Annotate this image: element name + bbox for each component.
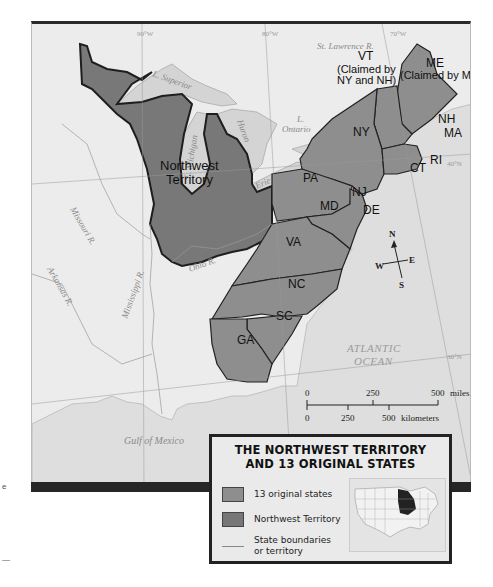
label-mississippi-river: Mississippi R. — [119, 269, 146, 321]
swatch-boundary-line — [222, 546, 244, 547]
legend-title-line2: AND 13 ORIGINAL STATES — [212, 457, 449, 471]
page-margin-dash: — — [2, 555, 10, 564]
label-de: DE — [363, 203, 380, 217]
label-vt-note-2: NY and NH) — [337, 74, 396, 86]
legend-label-boundaries: State boundaries or territory — [254, 535, 331, 557]
scale-miles-250: 250 — [366, 388, 380, 398]
swatch-northwest-territory — [222, 512, 244, 527]
label-me: ME — [426, 56, 444, 70]
label-ma: MA — [444, 126, 462, 140]
label-me-note: (Claimed by MA) — [400, 69, 471, 81]
label-gulf-of-mexico: Gulf of Mexico — [124, 435, 184, 446]
river-mississippi — [150, 224, 162, 414]
label-ri: RI — [430, 153, 442, 167]
compass-s: S — [399, 280, 404, 290]
scale-km-0: 0 — [305, 413, 310, 423]
legend-item-original-states: 13 original states — [222, 487, 332, 502]
grid-label-70w: 70°W — [390, 30, 407, 38]
scale-km-500: 500 — [382, 413, 396, 423]
grid-label-40n: 40°N — [447, 160, 462, 168]
label-nj: NJ — [352, 185, 367, 199]
legend-label-original-states: 13 original states — [254, 489, 332, 500]
label-ga: GA — [237, 333, 254, 347]
scale-km-unit: kilometers — [401, 413, 439, 423]
legend-label-northwest-territory: Northwest Territory — [254, 514, 340, 525]
label-nc: NC — [288, 277, 306, 291]
label-northwest-1: Northwest — [160, 158, 219, 173]
legend-title-line1: THE NORTHWEST TERRITORY — [212, 443, 449, 457]
label-vt: VT — [358, 49, 374, 63]
grid-label-90w: 90°W — [137, 30, 154, 38]
label-missouri-river: Missouri R. — [68, 204, 98, 246]
inset-us-map — [349, 478, 446, 552]
inset-map-svg — [350, 479, 445, 551]
scale-miles-0: 0 — [305, 388, 310, 398]
legend-box: THE NORTHWEST TERRITORY AND 13 ORIGINAL … — [209, 434, 452, 564]
scale-km-250: 250 — [341, 413, 355, 423]
swatch-original-states — [222, 487, 244, 502]
label-ct: CT — [410, 161, 427, 175]
compass-e: E — [409, 255, 415, 265]
map-canvas: 90°W 80°W 70°W 40°N 30°N L. Superior L. … — [32, 24, 471, 492]
label-pa: PA — [303, 171, 318, 185]
label-lake-ontario-1: L. — [296, 114, 304, 124]
label-atlantic-2: OCEAN — [354, 355, 393, 367]
scale-miles-500: 500 — [431, 388, 445, 398]
legend-item-northwest-territory: Northwest Territory — [222, 512, 340, 527]
legend-label-boundaries-2: or territory — [254, 546, 331, 557]
grid-label-80w: 80°W — [262, 30, 279, 38]
grid-label-30n: 30°N — [447, 353, 462, 361]
label-lake-ontario-2: Ontario — [282, 124, 311, 134]
inset-us-outline — [355, 487, 438, 537]
label-ny: NY — [353, 125, 370, 139]
label-arkansas-river: Arkansas R. — [45, 264, 76, 308]
legend-title: THE NORTHWEST TERRITORY AND 13 ORIGINAL … — [212, 443, 449, 471]
legend-item-boundaries: State boundaries or territory — [222, 535, 331, 557]
label-md: MD — [320, 199, 339, 213]
map-frame: 90°W 80°W 70°W 40°N 30°N L. Superior L. … — [31, 21, 471, 492]
compass-w: W — [375, 261, 384, 271]
page-margin-mark: e — [2, 482, 6, 491]
compass-n: N — [389, 229, 396, 239]
label-nh: NH — [438, 112, 455, 126]
label-va: VA — [286, 235, 301, 249]
label-northwest-2: Territory — [166, 172, 213, 187]
label-atlantic-1: ATLANTIC — [346, 342, 401, 354]
scale-miles-unit: miles — [450, 388, 470, 398]
label-sc: SC — [276, 309, 293, 323]
legend-label-boundaries-1: State boundaries — [254, 535, 331, 546]
